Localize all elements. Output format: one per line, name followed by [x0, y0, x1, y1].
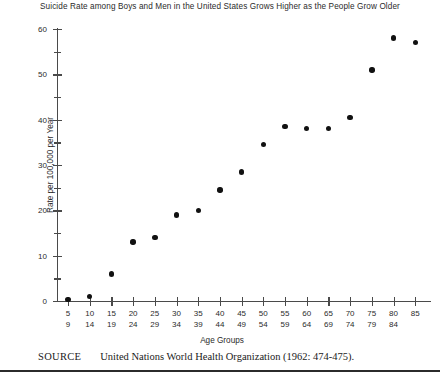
x-axis-title: Age Groups	[0, 336, 440, 345]
data-point	[304, 126, 309, 131]
y-tick-label: 50	[38, 70, 47, 79]
plot-area: 0102030405060 59101415192024252930343539…	[57, 28, 437, 304]
x-tick	[133, 297, 134, 306]
data-point	[282, 124, 287, 129]
y-tick-major: 30	[53, 165, 62, 166]
data-point	[369, 67, 374, 72]
source-label: SOURCE	[38, 351, 81, 362]
y-tick-minor	[54, 142, 61, 143]
y-tick-minor	[54, 233, 61, 234]
y-tick-minor	[54, 52, 61, 53]
y-tick-label: 0	[43, 297, 47, 306]
data-point	[326, 126, 331, 131]
x-tick	[415, 297, 416, 306]
data-point	[152, 235, 157, 240]
data-point	[239, 169, 244, 174]
x-tick-label: 7579	[367, 309, 376, 330]
x-tick-label: 1519	[107, 309, 116, 330]
x-tick	[198, 297, 199, 306]
x-tick-label: 3539	[194, 309, 203, 330]
data-point	[196, 208, 201, 213]
data-point	[109, 271, 114, 276]
data-point	[261, 142, 266, 147]
y-tick-major: 50	[53, 74, 62, 75]
y-tick-minor	[54, 188, 61, 189]
y-tick-label: 30	[38, 161, 47, 170]
x-tick-label: 5559	[281, 309, 290, 330]
x-axis-line	[57, 301, 431, 302]
y-tick-major: 40	[53, 120, 62, 121]
x-tick	[111, 297, 112, 306]
data-point	[130, 239, 135, 244]
x-tick-label: 6064	[302, 309, 311, 330]
x-tick-label: 59	[66, 309, 70, 330]
y-tick-major: 60	[53, 29, 62, 30]
x-tick	[328, 297, 329, 306]
source-note: SOURCEUnited Nations World Health Organi…	[38, 351, 354, 362]
y-tick-label: 60	[38, 25, 47, 34]
x-tick	[394, 297, 395, 306]
y-tick-minor	[54, 278, 61, 279]
source-text: United Nations World Health Organization…	[100, 351, 354, 362]
data-point	[391, 35, 396, 40]
x-tick-label: 1014	[85, 309, 94, 330]
x-tick-label: 2024	[129, 309, 138, 330]
x-tick-label: 3034	[172, 309, 181, 330]
y-tick-label: 20	[38, 206, 47, 215]
chart-title: Suicide Rate among Boys and Men in the U…	[0, 2, 440, 11]
chart-figure: Suicide Rate among Boys and Men in the U…	[0, 0, 440, 377]
x-tick	[242, 297, 243, 306]
x-tick	[177, 297, 178, 306]
data-point	[217, 187, 222, 192]
x-tick-label: 6569	[324, 309, 333, 330]
y-tick-major: 10	[53, 256, 62, 257]
x-tick-label: 5054	[259, 309, 268, 330]
data-point	[174, 212, 179, 217]
x-tick	[350, 297, 351, 306]
y-tick-label: 40	[38, 115, 47, 124]
y-tick-label: 10	[38, 251, 47, 260]
y-tick-minor	[54, 97, 61, 98]
x-tick	[155, 297, 156, 306]
x-tick	[285, 297, 286, 306]
data-point	[347, 115, 352, 120]
x-tick	[307, 297, 308, 306]
x-tick	[263, 297, 264, 306]
data-point	[65, 297, 70, 302]
x-tick-label: 4549	[237, 309, 246, 330]
y-tick-major: 20	[53, 210, 62, 211]
x-tick-label: 85	[411, 309, 420, 320]
bottom-rule	[0, 370, 440, 372]
data-point	[413, 40, 418, 45]
x-tick-label: 4044	[215, 309, 224, 330]
x-tick-label: 2529	[150, 309, 159, 330]
x-tick	[372, 297, 373, 306]
x-tick-label: 7074	[346, 309, 355, 330]
x-tick	[220, 297, 221, 306]
x-tick-label: 8084	[389, 309, 398, 330]
y-tick-major: 0	[53, 301, 62, 302]
data-point	[87, 294, 92, 299]
